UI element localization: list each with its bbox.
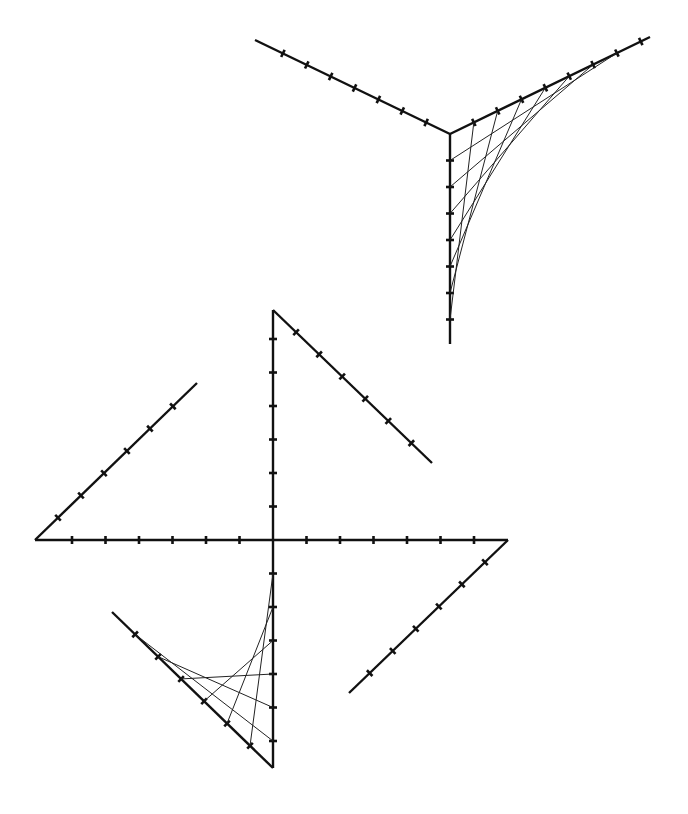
tick-mark bbox=[401, 107, 404, 114]
arm-right bbox=[450, 37, 650, 134]
stitch-line bbox=[450, 53, 617, 160]
stitch-line bbox=[135, 634, 273, 741]
stitch-line bbox=[158, 657, 273, 708]
stitch-line bbox=[250, 574, 273, 746]
stitch-line bbox=[450, 76, 569, 213]
tick-mark bbox=[353, 84, 356, 91]
tick-mark bbox=[377, 96, 380, 103]
tick-mark bbox=[639, 38, 642, 45]
y-figure bbox=[255, 37, 650, 344]
tick-mark bbox=[424, 119, 427, 126]
tick-mark bbox=[305, 61, 308, 68]
tick-mark bbox=[329, 73, 332, 80]
pinwheel-figure bbox=[35, 310, 508, 768]
stitch-line bbox=[450, 65, 593, 187]
stitch-line bbox=[227, 607, 273, 723]
curve-stitching-diagram bbox=[0, 0, 688, 814]
tick-mark bbox=[281, 50, 284, 57]
arm-left bbox=[255, 40, 450, 134]
